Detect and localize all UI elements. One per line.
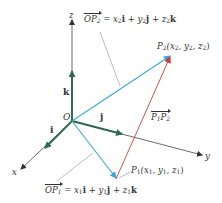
diagram-canvas: [0, 0, 222, 203]
op2-equation: OP2 = x2i + y2j + z2k: [84, 15, 176, 24]
j-unit-vector: [72, 121, 122, 134]
z-axis-label: z: [69, 11, 73, 20]
p1-leader-line: [119, 172, 130, 178]
k-label: k: [63, 88, 69, 97]
op1-leader-line: [57, 153, 93, 181]
op1-vector: [72, 121, 116, 178]
op1-equation: OP1 = x1i + y1j + z1k: [45, 186, 137, 195]
op1-vector-name: OP1: [45, 186, 62, 195]
p1p2-label: P1P2: [151, 113, 170, 122]
y-axis-label: y: [205, 152, 210, 161]
op2-vector-name: OP2: [84, 15, 101, 24]
origin-label: O: [63, 113, 70, 122]
op2-leader-line: [100, 32, 120, 86]
j-label: j: [100, 113, 103, 122]
x-axis-label: x: [12, 168, 17, 177]
vector-diagram: z x y O k i j OP2 = x2i + y2j + z2k P2(x…: [0, 0, 222, 203]
i-label: i: [50, 126, 53, 135]
p2-label: P2(x2, y2, z2): [157, 42, 210, 51]
p1-label: P1(x1, y1, z1): [131, 166, 184, 175]
